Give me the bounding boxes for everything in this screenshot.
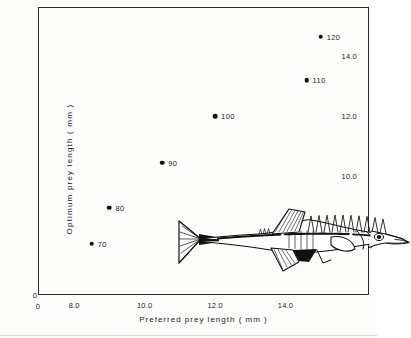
data-point-label: 110: [313, 76, 326, 85]
data-point-label: 100: [221, 112, 235, 121]
x-tick-label: 14.0: [278, 301, 293, 310]
x-axis-origin-label: 0: [36, 302, 40, 311]
x-tick-label: 8.0: [69, 301, 80, 310]
data-point: [213, 114, 218, 119]
x-tick-label: 10.0: [137, 301, 152, 310]
page-edge-rule: [0, 335, 377, 336]
x-axis-title: Preferred prey length ( mm ): [38, 315, 369, 324]
x-tick-minor: [39, 116, 40, 121]
x-tick-major: [39, 35, 40, 43]
data-point: [318, 34, 323, 39]
y-axis-origin-label: 0: [33, 291, 37, 300]
y-tick-label: 8.0: [346, 232, 357, 241]
y-axis-ticks: [39, 8, 368, 19]
data-point: [304, 78, 309, 83]
data-point-label: 80: [115, 203, 124, 212]
y-tick-label: 12.0: [342, 112, 357, 121]
data-point-label: 70: [98, 239, 107, 248]
data-point: [90, 241, 95, 246]
y-tick-label: 14.0: [342, 52, 357, 61]
plot-area: 8.010.012.014.0 8.010.012.014.0 70809010…: [38, 7, 369, 295]
x-tick-major: [39, 19, 40, 27]
data-point-label: 120: [327, 32, 341, 41]
stickleback-fish-illustration: [171, 201, 411, 283]
data-point: [160, 160, 165, 165]
data-point: [107, 205, 112, 210]
data-point-label: 90: [168, 158, 177, 167]
y-tick-label: 10.0: [342, 172, 357, 181]
x-tick-label: 12.0: [207, 301, 222, 310]
x-tick-major: [39, 27, 40, 35]
x-tick-major: [39, 43, 40, 51]
